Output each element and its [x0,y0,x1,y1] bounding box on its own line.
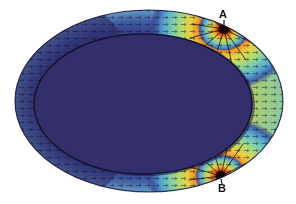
inner-ellipse-core [34,34,255,176]
field-plot-canvas [0,0,296,204]
hotspot-label-b: B [218,183,226,194]
hotspot-label-a: A [219,9,227,20]
field-visualization-figure: A B [0,0,296,204]
